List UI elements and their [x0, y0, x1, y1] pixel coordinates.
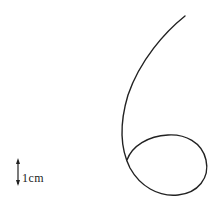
arrow-down-icon — [16, 180, 20, 186]
scale-bar-label: 1cm — [22, 171, 44, 186]
arrow-up-icon — [16, 158, 20, 164]
scale-bar — [16, 158, 20, 186]
trajectory-curve — [122, 16, 207, 195]
